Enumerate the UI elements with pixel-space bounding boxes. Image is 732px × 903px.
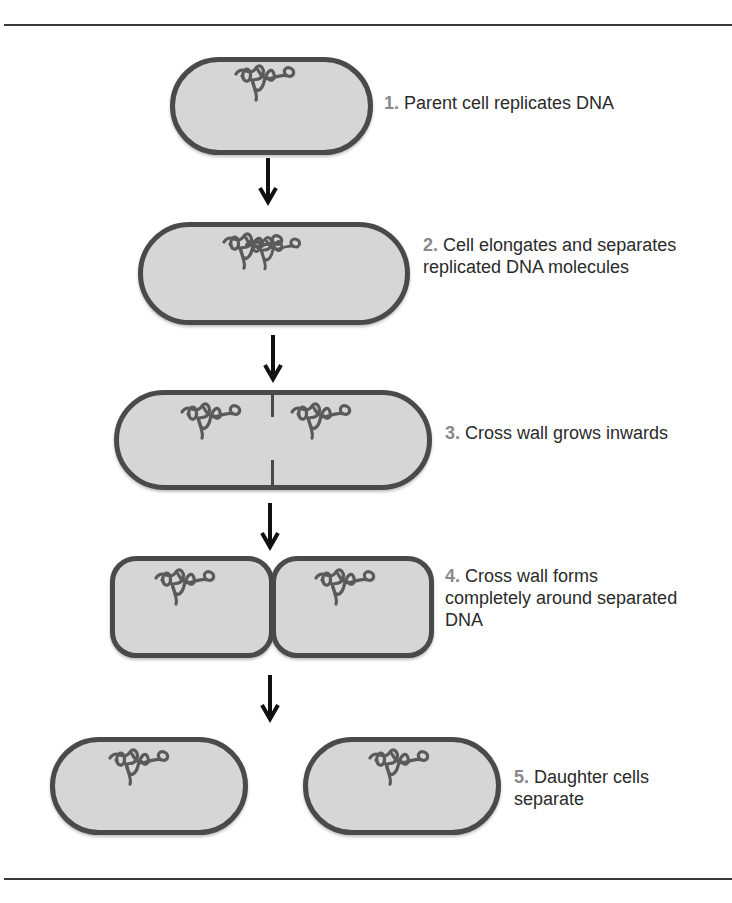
- step-5-label: 5. Daughter cells separate: [514, 766, 724, 810]
- dna-icon: [178, 398, 248, 448]
- dna-icon: [232, 60, 302, 110]
- step-number: 2.: [423, 235, 438, 255]
- step-text: Daughter cells separate: [514, 767, 649, 809]
- bottom-rule: [4, 878, 732, 880]
- step-text: Cell elongates and separates replicated …: [423, 235, 676, 277]
- dna-icon: [366, 744, 436, 794]
- step-text: Cross wall grows inwards: [465, 423, 668, 443]
- down-arrow-icon: [263, 335, 283, 383]
- dna-icon: [106, 744, 176, 794]
- step-number: 3.: [445, 423, 460, 443]
- top-rule: [4, 24, 732, 26]
- step-1-label: 1. Parent cell replicates DNA: [384, 92, 714, 114]
- step-3-label: 3. Cross wall grows inwards: [445, 422, 705, 444]
- dna-icon: [312, 564, 382, 614]
- step-2-label: 2. Cell elongates and separates replicat…: [423, 234, 713, 278]
- step-text: Parent cell replicates DNA: [404, 93, 614, 113]
- dna-icon: [288, 398, 358, 448]
- dna-icon: [152, 564, 222, 614]
- down-arrow-icon: [260, 675, 280, 723]
- step-text: Cross wall forms completely around separ…: [445, 566, 677, 630]
- down-arrow-icon: [258, 158, 278, 206]
- step-number: 4.: [445, 566, 460, 586]
- step-4-label: 4. Cross wall forms completely around se…: [445, 565, 685, 631]
- step-number: 5.: [514, 767, 529, 787]
- cross-wall-bottom: [271, 460, 274, 487]
- dna-icon: [240, 232, 310, 278]
- cross-wall-top: [271, 393, 274, 417]
- down-arrow-icon: [260, 503, 280, 551]
- step-number: 1.: [384, 93, 399, 113]
